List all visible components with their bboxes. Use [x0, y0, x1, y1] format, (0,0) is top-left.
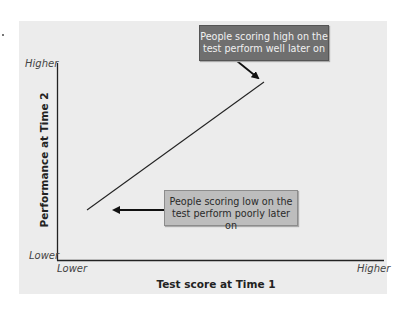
annotation-low-line2: test perform poorly later on [165, 208, 297, 232]
annotation-high-scorers: People scoring high on the test perform … [199, 25, 329, 61]
y-axis-label: Performance at Time 2 [38, 92, 50, 227]
x-axis-label: Test score at Time 1 [0, 278, 410, 290]
annotation-low-line1: People scoring low on the [165, 196, 297, 208]
x-tick-lower: Lower [57, 263, 87, 274]
high-arrow [237, 61, 258, 78]
y-tick-lower: Lower [29, 250, 59, 261]
annotation-high-line2: test perform well later on [200, 43, 328, 55]
annotation-low-scorers: People scoring low on the test perform p… [164, 190, 298, 226]
annotation-high-line1: People scoring high on the [200, 31, 328, 43]
x-tick-higher: Higher [357, 263, 390, 274]
y-tick-higher: Higher [25, 58, 58, 69]
